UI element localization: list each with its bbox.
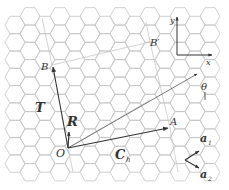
hexagon-cell: [200, 8, 220, 25]
hexagon-cell: [50, 8, 70, 25]
hexagon-cell: [110, 60, 130, 77]
hexagon-cell: [65, 16, 85, 33]
honeycomb-lattice: [5, 8, 220, 181]
hexagon-cell: [80, 164, 100, 181]
hexagon-cell: [20, 77, 40, 94]
hexagon-cell: [65, 34, 85, 51]
point-a-label: A: [169, 116, 177, 127]
hexagon-cell: [95, 103, 115, 120]
chiral-vector-label: C: [115, 147, 126, 162]
hexagon-cell: [50, 77, 70, 94]
theta-label: θ: [201, 81, 207, 92]
hexagon-cell: [125, 86, 145, 103]
hexagon-cell: [170, 94, 190, 111]
chiral-vector-arrow: [68, 128, 168, 148]
hexagon-cell: [20, 164, 40, 181]
hexagon-cell: [140, 112, 160, 129]
unit-vector-a1-arrow: [185, 151, 199, 160]
unit-vector-a1-subscript: 1: [208, 139, 212, 146]
point-b-prime-label: B′: [149, 37, 160, 48]
line-b-up: [42, 18, 52, 65]
y-axis-label: y: [169, 16, 175, 25]
hexagon-cell: [80, 60, 100, 77]
hexagon-cell: [95, 16, 115, 33]
hexagon-cell: [170, 164, 190, 181]
hexagon-cell: [110, 77, 130, 94]
hexagon-cell: [185, 103, 205, 120]
hexagon-cell: [20, 60, 40, 77]
hexagon-cell: [50, 164, 70, 181]
hexagon-cell: [35, 138, 55, 155]
hexagon-cell: [95, 34, 115, 51]
hexagon-cell: [65, 155, 85, 172]
hexagon-cell: [185, 51, 205, 68]
hexagon-cell: [20, 42, 40, 59]
hexagon-cell: [200, 146, 220, 163]
hexagon-cell: [125, 16, 145, 33]
hexagon-cell: [125, 51, 145, 68]
hexagon-cell: [95, 51, 115, 68]
unit-vector-a2-label: a: [200, 168, 207, 181]
graphene-lattice-diagram: O A B B′ T R C h θ a 1 a 2 y x: [0, 0, 229, 190]
hexagon-cell: [200, 112, 220, 129]
hexagon-cell: [110, 25, 130, 42]
hexagon-cell: [200, 94, 220, 111]
hexagon-cell: [5, 16, 25, 33]
hexagon-cell: [125, 68, 145, 85]
line-a-to-b-prime: [150, 42, 170, 128]
translation-vector-arrow: [53, 67, 68, 148]
hexagon-cell: [185, 16, 205, 33]
hexagon-cell: [170, 42, 190, 59]
hexagon-cell: [140, 146, 160, 163]
hexagon-cell: [140, 8, 160, 25]
hexagon-cell: [110, 94, 130, 111]
hexagon-cell: [125, 34, 145, 51]
unit-vector-a1-label: a: [200, 132, 207, 145]
hexagon-cell: [35, 155, 55, 172]
hexagon-cell: [155, 155, 175, 172]
hexagon-cell: [5, 86, 25, 103]
hexagon-cell: [200, 25, 220, 42]
hexagon-cell: [140, 60, 160, 77]
hexagon-cell: [95, 86, 115, 103]
hexagon-cell: [65, 68, 85, 85]
hexagon-cell: [50, 25, 70, 42]
line-o-down: [68, 148, 73, 172]
hexagon-cell: [20, 129, 40, 146]
hexagon-cell: [65, 86, 85, 103]
unit-vector-a2-subscript: 2: [207, 175, 212, 182]
hexagon-cell: [5, 34, 25, 51]
hexagon-cell: [20, 146, 40, 163]
point-o-label: O: [56, 147, 65, 160]
hexagon-cell: [35, 120, 55, 137]
hexagon-cell: [35, 34, 55, 51]
hexagon-cell: [5, 103, 25, 120]
point-b-label: B: [40, 61, 48, 72]
hexagon-cell: [110, 8, 130, 25]
hexagon-cell: [80, 25, 100, 42]
chiral-vector-subscript: h: [126, 156, 131, 164]
hexagon-cell: [95, 68, 115, 85]
hexagon-cell: [20, 8, 40, 25]
hexagon-cell: [125, 138, 145, 155]
hexagon-cell: [140, 164, 160, 181]
hexagon-cell: [80, 77, 100, 94]
hexagon-cell: [110, 164, 130, 181]
hexagon-cell: [5, 155, 25, 172]
hexagon-cell: [5, 120, 25, 137]
line-o-to-theta-ref: [68, 74, 197, 148]
hexagon-cell: [80, 146, 100, 163]
hexagon-cell: [170, 60, 190, 77]
hexagon-cell: [170, 25, 190, 42]
hexagon-cell: [80, 42, 100, 59]
x-axis-label: x: [206, 58, 211, 67]
hexagon-cell: [50, 42, 70, 59]
translation-vector-label: T: [35, 100, 46, 115]
hexagon-cell: [5, 138, 25, 155]
hexagon-cell: [200, 42, 220, 59]
hexagon-cell: [185, 34, 205, 51]
hexagon-cell: [80, 94, 100, 111]
symmetry-vector-label: R: [66, 114, 78, 129]
hexagon-cell: [80, 8, 100, 25]
hexagon-cell: [95, 155, 115, 172]
